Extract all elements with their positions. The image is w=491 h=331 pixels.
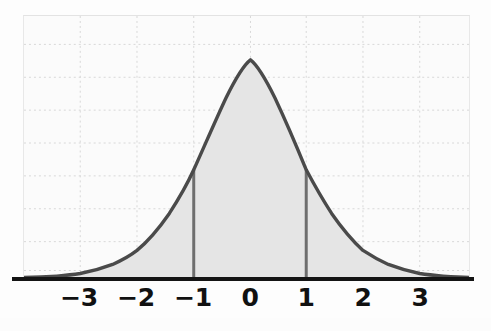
x-axis-tick-labels: −3 −2 −1 0 1 2 3 xyxy=(0,283,491,317)
chart-figure: −3 −2 −1 0 1 2 3 xyxy=(0,0,491,331)
plot-area xyxy=(23,15,470,278)
tick-label-0: 0 xyxy=(220,283,280,313)
tick-label-1: 1 xyxy=(276,283,336,313)
tick-label-3: 3 xyxy=(390,283,450,313)
x-axis-line xyxy=(12,277,474,281)
page-margin xyxy=(0,318,491,331)
tick-label--1: −1 xyxy=(163,283,223,313)
tick-label--3: −3 xyxy=(49,283,109,313)
tick-label-2: 2 xyxy=(333,283,393,313)
shaded-area-under-curve xyxy=(24,60,469,278)
tick-label--2: −2 xyxy=(106,283,166,313)
normal-distribution-curve-layer xyxy=(24,16,469,278)
